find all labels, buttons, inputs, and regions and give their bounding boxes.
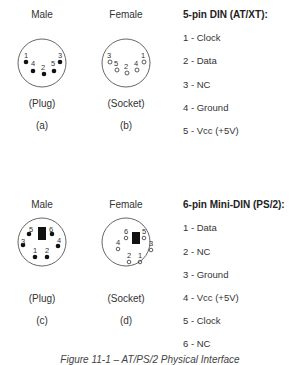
svg-text:1: 1 <box>138 251 142 260</box>
din5-pin-3: 3 - NC <box>183 79 210 90</box>
svg-text:2: 2 <box>41 63 45 72</box>
figure-letter-b: (b) <box>91 120 161 131</box>
figure-letter-d: (d) <box>91 315 161 326</box>
minidin6-pin-1: 1 - Data <box>183 222 217 233</box>
svg-text:2: 2 <box>45 246 49 255</box>
svg-text:5: 5 <box>142 227 146 236</box>
svg-text:3: 3 <box>21 237 25 246</box>
figure-letter-a: (a) <box>7 120 77 131</box>
male-heading-bottom: Male <box>7 199 77 210</box>
minidin6-pin-4: 4 - Vcc (+5V) <box>183 292 239 303</box>
svg-text:1: 1 <box>141 51 145 60</box>
socket-label-bottom: (Socket) <box>91 293 161 304</box>
minidin6-pin-6: 6 - NC <box>183 338 210 349</box>
minidin6-plug-diagram: 5 6 3 4 1 2 <box>18 218 66 266</box>
svg-text:1: 1 <box>24 51 28 60</box>
plug-label-top: (Plug) <box>7 98 77 109</box>
minidin6-socket-diagram: 6 5 4 3 2 1 <box>102 218 153 266</box>
svg-text:4: 4 <box>31 59 35 68</box>
svg-text:6: 6 <box>49 225 53 234</box>
din5-pin-4: 4 - Ground <box>183 102 228 113</box>
minidin6-pin-5: 5 - Clock <box>183 315 220 326</box>
svg-text:3: 3 <box>58 51 62 60</box>
minidin6-pinout-title: 6-pin Mini-DIN (PS/2): <box>183 199 285 210</box>
svg-text:4: 4 <box>57 236 61 245</box>
svg-text:2: 2 <box>127 251 131 260</box>
svg-text:3: 3 <box>107 51 111 60</box>
socket-label-top: (Socket) <box>91 98 161 109</box>
svg-text:1: 1 <box>33 246 37 255</box>
din5-pin-1: 1 - Clock <box>183 32 220 43</box>
din5-socket-diagram: 3 5 2 4 1 <box>102 39 150 87</box>
svg-text:3: 3 <box>149 239 153 248</box>
svg-text:5: 5 <box>114 59 118 68</box>
svg-text:2: 2 <box>124 62 128 71</box>
figure-letter-c: (c) <box>7 315 77 326</box>
din5-plug-diagram: 1 4 2 5 3 <box>18 39 66 87</box>
svg-text:6: 6 <box>124 227 128 236</box>
din5-pinout-title: 5-pin DIN (AT/XT): <box>183 9 268 20</box>
figure-caption: Figure 11-1 – AT/PS/2 Physical Interface <box>0 354 300 365</box>
svg-text:5: 5 <box>29 225 33 234</box>
svg-text:5: 5 <box>51 59 55 68</box>
svg-text:4: 4 <box>116 238 120 247</box>
minidin6-pin-2: 2 - NC <box>183 246 210 257</box>
svg-text:4: 4 <box>134 59 138 68</box>
plug-label-bottom: (Plug) <box>7 293 77 304</box>
female-heading-bottom: Female <box>91 199 161 210</box>
minidin6-pin-3: 3 - Ground <box>183 269 228 280</box>
din5-pin-5: 5 - Vcc (+5V) <box>183 125 239 136</box>
din5-pin-2: 2 - Data <box>183 55 217 66</box>
